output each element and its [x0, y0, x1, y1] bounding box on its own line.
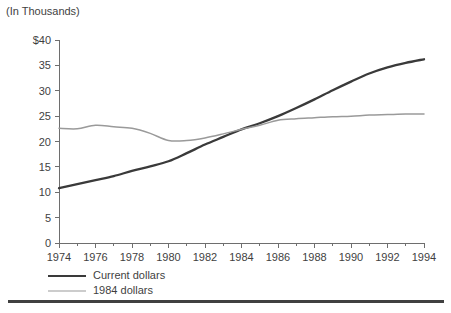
x-tick-label: 1980	[156, 251, 180, 263]
x-tick-label: 1984	[229, 251, 253, 263]
x-tick-label: 1986	[266, 251, 290, 263]
y-tick-label: 10	[39, 186, 51, 198]
y-tick-label: 20	[39, 136, 51, 148]
y-tick-label: 35	[39, 59, 51, 71]
chart-legend: Current dollars 1984 dollars	[48, 268, 308, 298]
x-tick-label: 1974	[47, 251, 71, 263]
y-tick-label: 25	[39, 110, 51, 122]
series-line-current-dollars	[59, 59, 424, 188]
legend-item-1984-dollars: 1984 dollars	[48, 283, 308, 298]
x-tick-label: 1978	[120, 251, 144, 263]
x-tick-label: 1992	[375, 251, 399, 263]
legend-line-swatch-current-dollars	[48, 271, 86, 281]
y-tick-label: 5	[45, 212, 51, 224]
y-tick-label: 15	[39, 161, 51, 173]
line-chart-plot: 05101520253035$4019741976197819801982198…	[0, 0, 451, 313]
x-tick-label: 1976	[83, 251, 107, 263]
chart-axes: 05101520253035$4019741976197819801982198…	[33, 34, 437, 263]
x-tick-label: 1990	[339, 251, 363, 263]
y-tick-label: 30	[39, 85, 51, 97]
x-tick-label: 1994	[412, 251, 436, 263]
chart-figure: (In Thousands) 05101520253035$4019741976…	[0, 0, 451, 313]
legend-item-current-dollars: Current dollars	[48, 268, 308, 283]
bottom-divider-rule	[8, 300, 444, 303]
y-tick-label: 0	[45, 237, 51, 249]
legend-label-current-dollars: Current dollars	[93, 269, 165, 282]
series-line-1984-dollars	[59, 114, 424, 141]
x-tick-label: 1982	[193, 251, 217, 263]
legend-label-1984-dollars: 1984 dollars	[93, 284, 153, 297]
x-tick-label: 1988	[302, 251, 326, 263]
legend-line-swatch-1984-dollars	[48, 286, 86, 296]
y-tick-label: $40	[33, 34, 51, 46]
chart-series	[59, 59, 424, 188]
